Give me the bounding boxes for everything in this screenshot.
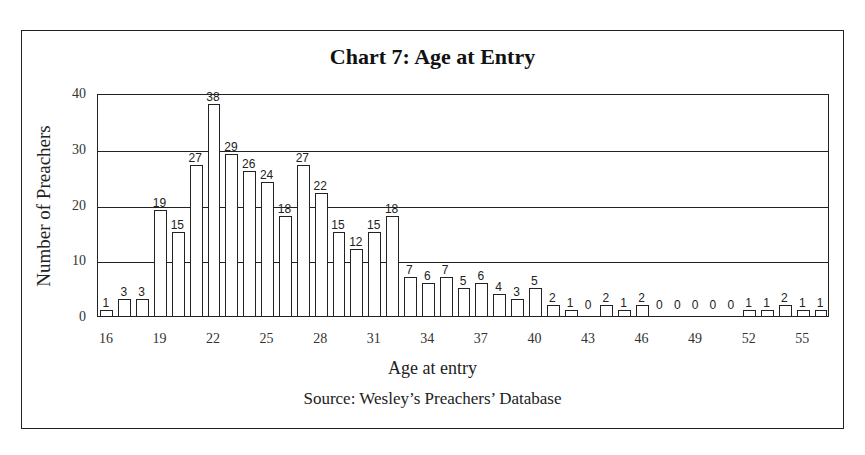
bar-age-55 [797,310,810,316]
x-tick-label: 28 [313,331,327,347]
bar-value-label: 0 [585,298,592,312]
bar-value-label: 1 [799,296,806,310]
bar-value-label: 4 [495,280,502,294]
bar-age-30 [350,249,363,316]
x-tick-label: 22 [206,331,220,347]
source-note: Source: Wesley’s Preachers’ Database [0,389,865,409]
bar-value-label: 3 [138,285,145,299]
x-tick-label: 52 [742,331,756,347]
bar-age-36 [458,288,471,316]
bar-age-53 [761,310,774,316]
bar-age-21 [190,165,203,316]
bar-age-29 [333,232,346,316]
bar-value-label: 2 [638,291,645,305]
bar-value-label: 18 [278,202,291,216]
bar-value-label: 19 [153,196,166,210]
bar-age-22 [208,104,221,316]
bar-age-27 [297,165,310,316]
x-tick-label: 25 [260,331,274,347]
y-tick-label: 40 [56,86,86,102]
bar-age-54 [779,305,792,316]
bar-value-label: 5 [460,274,467,288]
bar-value-label: 3 [513,285,520,299]
x-tick-label: 34 [420,331,434,347]
bar-value-label: 2 [602,291,609,305]
x-tick-label: 46 [635,331,649,347]
bar-age-35 [440,277,453,316]
bar-value-label: 0 [656,298,663,312]
bar-value-label: 6 [478,269,485,283]
x-tick-label: 19 [152,331,166,347]
x-tick-label: 49 [688,331,702,347]
bar-value-label: 2 [549,291,556,305]
bar-value-label: 18 [385,202,398,216]
y-tick-label: 30 [56,142,86,158]
x-axis-label: Age at entry [0,358,865,379]
bar-value-label: 15 [331,218,344,232]
bar-age-37 [475,283,488,316]
bar-value-label: 0 [692,298,699,312]
bar-value-label: 27 [296,151,309,165]
bar-age-31 [368,232,381,316]
x-tick-label: 55 [795,331,809,347]
bar-value-label: 26 [242,157,255,171]
bar-value-label: 24 [260,168,273,182]
bar-value-label: 0 [710,298,717,312]
x-tick-label: 16 [99,331,113,347]
bar-value-label: 1 [763,296,770,310]
bar-age-34 [422,283,435,316]
bar-age-32 [386,216,399,316]
bar-value-label: 5 [531,274,538,288]
bar-age-39 [511,299,524,316]
bar-age-46 [636,305,649,316]
bar-value-label: 1 [620,296,627,310]
bar-age-56 [815,310,828,316]
y-tick-label: 20 [56,198,86,214]
bar-value-label: 1 [567,296,574,310]
bar-age-33 [404,277,417,316]
bar-value-label: 38 [206,90,219,104]
bar-value-label: 0 [674,298,681,312]
bar-age-23 [225,154,238,316]
bar-age-45 [618,310,631,316]
bar-age-28 [315,193,328,316]
bar-value-label: 6 [424,269,431,283]
bar-age-20 [172,232,185,316]
x-tick-label: 31 [367,331,381,347]
bar-value-label: 15 [171,218,184,232]
x-tick-label: 37 [474,331,488,347]
y-axis-label: Number of Preachers [33,125,55,286]
bar-value-label: 27 [189,151,202,165]
bar-age-41 [547,305,560,316]
bar-value-label: 22 [313,179,326,193]
bar-value-label: 1 [817,296,824,310]
bar-value-label: 3 [120,285,127,299]
bar-age-44 [600,305,613,316]
bar-value-label: 1 [745,296,752,310]
bar-age-52 [743,310,756,316]
bar-age-26 [279,216,292,316]
y-tick-label: 10 [56,253,86,269]
y-tick-label: 0 [56,309,86,325]
bar-age-25 [261,182,274,316]
bar-age-38 [493,294,506,316]
bar-age-17 [118,299,131,316]
bar-age-18 [136,299,149,316]
bar-age-16 [100,310,113,316]
bar-value-label: 2 [781,291,788,305]
bar-value-label: 12 [349,235,362,249]
x-tick-label: 40 [527,331,541,347]
bar-value-label: 15 [367,218,380,232]
bar-age-42 [565,310,578,316]
bar-age-24 [243,171,256,316]
bar-age-19 [154,210,167,316]
bar-value-label: 0 [727,298,734,312]
bar-value-label: 1 [103,296,110,310]
chart-title: Chart 7: Age at Entry [0,44,865,70]
bar-age-40 [529,288,542,316]
bar-value-label: 29 [224,140,237,154]
x-tick-label: 43 [581,331,595,347]
bar-value-label: 7 [442,263,449,277]
bar-value-label: 7 [406,263,413,277]
